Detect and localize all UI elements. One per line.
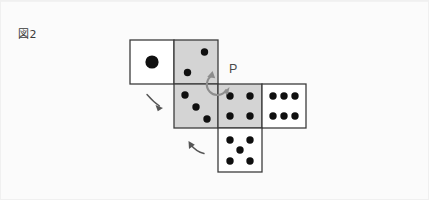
pip: [201, 48, 208, 55]
pip: [226, 112, 233, 119]
pip: [246, 92, 253, 99]
pip: [246, 136, 253, 143]
pip: [236, 146, 243, 153]
point-p-label: P: [229, 62, 237, 76]
pip: [192, 103, 199, 110]
guide-arrow-left-curve: [147, 95, 160, 107]
pip: [246, 112, 253, 119]
face-one-pips: [145, 55, 158, 68]
guide-arrow-bottom: [189, 141, 205, 154]
pip: [269, 92, 276, 99]
face-six-rect: [262, 84, 306, 128]
pip: [269, 112, 276, 119]
pip: [181, 91, 188, 98]
pip: [184, 69, 191, 76]
cube-net-diagram: P: [1, 1, 429, 200]
pip: [203, 115, 210, 122]
guide-arrow-left: [147, 95, 163, 112]
pip: [291, 112, 298, 119]
pip: [246, 157, 253, 164]
pip: [226, 157, 233, 164]
pip: [280, 112, 287, 119]
pip: [291, 92, 298, 99]
pip: [145, 55, 158, 68]
figure-canvas: 図2: [0, 0, 429, 200]
pip: [280, 92, 287, 99]
pip: [226, 136, 233, 143]
